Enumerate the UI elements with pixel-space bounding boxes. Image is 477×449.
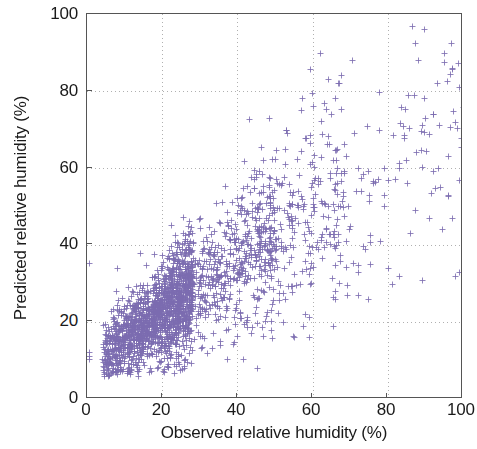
x-tick-mark-60	[311, 393, 312, 398]
x-tick-mark-80	[386, 393, 387, 398]
y-tick-mark-0	[87, 397, 92, 398]
y-tick-mark-20	[87, 320, 92, 321]
y-tick-label-0: 0	[30, 388, 78, 408]
y-axis-label: Predicted relative humidity (%)	[11, 16, 31, 401]
x-tick-label-60: 60	[288, 400, 334, 420]
y-tick-mark-100	[87, 13, 92, 14]
scatter-plot-figure: 0 20 40 60 80 100 0 20 40 60 80 100 Obse…	[0, 0, 477, 449]
y-tick-mark-80	[87, 90, 92, 91]
y-tick-mark-60	[87, 167, 92, 168]
y-tick-label-80: 80	[30, 81, 78, 101]
x-axis-label: Observed relative humidity (%)	[86, 423, 462, 443]
x-tick-label-40: 40	[213, 400, 259, 420]
x-tick-mark-100	[461, 393, 462, 398]
x-tick-mark-20	[161, 393, 162, 398]
x-tick-label-80: 80	[363, 400, 409, 420]
y-tick-mark-40	[87, 243, 92, 244]
y-tick-label-40: 40	[30, 234, 78, 254]
y-tick-label-100: 100	[30, 4, 78, 24]
y-tick-label-60: 60	[30, 158, 78, 178]
x-tick-mark-40	[236, 393, 237, 398]
plot-area	[86, 13, 462, 398]
x-tick-label-100: 100	[438, 400, 477, 420]
x-tick-label-20: 20	[138, 400, 184, 420]
y-tick-label-20: 20	[30, 311, 78, 331]
scatter-data-canvas	[87, 14, 462, 398]
